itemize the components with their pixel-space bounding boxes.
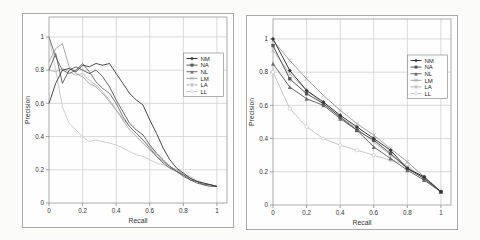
y-axis-title: Precision — [248, 98, 255, 126]
series-marker — [415, 92, 418, 95]
y-tick-label: 0.8 — [259, 68, 268, 75]
plot-frame — [49, 17, 227, 203]
left-pr-chart-svg: 00.20.40.60.8100.20.40.60.81RecallPrecis… — [23, 14, 233, 227]
x-axis-title: Recall — [353, 219, 372, 226]
left-chart-panel: 00.20.40.60.8100.20.40.60.81RecallPrecis… — [22, 13, 234, 228]
series-marker — [305, 92, 308, 95]
x-tick-label: 0.4 — [336, 209, 345, 216]
legend-label-nl: NL — [201, 69, 209, 75]
x-axis-title: Recall — [129, 217, 148, 224]
series-marker — [372, 153, 375, 156]
x-tick-label: 0.6 — [369, 209, 378, 216]
series-marker — [288, 77, 291, 80]
right-pr-chart-svg: 00.20.40.60.8100.20.40.60.81RecallPrecis… — [247, 16, 457, 229]
legend-label-na: NA — [201, 62, 209, 68]
y-tick-label: 0.6 — [259, 102, 268, 109]
right-chart-panel: 00.20.40.60.8100.20.40.60.81RecallPrecis… — [246, 15, 458, 230]
x-tick-label: 0 — [47, 207, 51, 214]
y-tick-label: 1 — [264, 35, 268, 42]
y-tick-label: 0.8 — [35, 66, 44, 73]
x-tick-label: 0.8 — [179, 207, 188, 214]
y-tick-label: 0.2 — [259, 168, 268, 175]
series-marker — [271, 62, 275, 66]
series-marker — [191, 90, 194, 93]
series-marker — [322, 137, 325, 140]
y-tick-label: 0.6 — [35, 100, 44, 107]
x-tick-label: 1 — [439, 209, 443, 216]
legend-label-la: LA — [201, 82, 208, 88]
x-tick-label: 1 — [215, 207, 219, 214]
y-tick-label: 1 — [40, 33, 44, 40]
x-tick-label: 0.2 — [302, 209, 311, 216]
y-axis-title: Precision — [24, 96, 31, 124]
x-tick-label: 0.6 — [145, 207, 154, 214]
series-marker — [355, 148, 358, 151]
legend-label-lm: LM — [201, 76, 209, 82]
x-tick-label: 0.4 — [112, 207, 121, 214]
y-tick-label: 0.2 — [35, 166, 44, 173]
legend-label-la: LA — [425, 84, 432, 90]
legend-label-lm: LM — [425, 78, 433, 84]
legend-label-ll: LL — [201, 89, 208, 95]
x-tick-label: 0.2 — [78, 207, 87, 214]
series-marker — [338, 144, 341, 147]
y-tick-label: 0.4 — [35, 133, 44, 140]
legend-label-ll: LL — [425, 91, 432, 97]
series-marker — [305, 125, 308, 128]
series-marker — [355, 129, 358, 132]
y-tick-label: 0 — [264, 201, 268, 208]
y-tick-label: 0 — [40, 199, 44, 206]
legend-label-nm: NM — [201, 56, 210, 62]
series-marker — [389, 152, 392, 155]
series-marker — [288, 107, 291, 110]
series-marker — [288, 59, 292, 63]
series-marker — [271, 44, 274, 47]
x-tick-label: 0.8 — [403, 209, 412, 216]
y-tick-label: 0.4 — [259, 135, 268, 142]
series-marker — [271, 70, 274, 73]
legend-label-nm: NM — [425, 58, 434, 64]
legend-label-na: NA — [425, 64, 433, 70]
series-marker — [321, 93, 325, 97]
x-tick-label: 0 — [271, 209, 275, 216]
series-marker — [415, 66, 418, 69]
series-marker — [271, 37, 275, 41]
legend-label-nl: NL — [425, 71, 433, 77]
series-marker — [191, 64, 194, 67]
